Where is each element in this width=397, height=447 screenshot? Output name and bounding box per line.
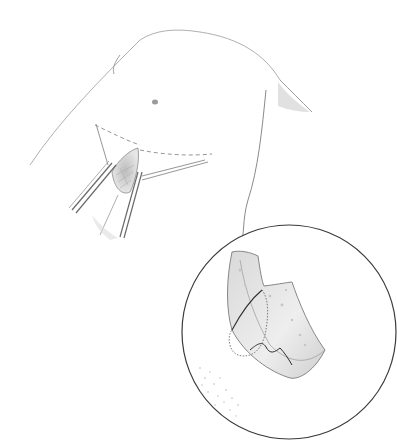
instrument-shaft [142,160,208,180]
magnified-inset [182,225,396,439]
dashed-incision-lines [95,125,212,155]
flank-shading [278,82,310,112]
umbilicus [152,100,158,105]
torso-outline [30,30,312,250]
surgical-illustration [0,0,397,447]
retractor-left [69,161,116,213]
left-shading [92,215,118,240]
illustration-canvas [0,0,397,447]
guide-wire [96,124,108,165]
